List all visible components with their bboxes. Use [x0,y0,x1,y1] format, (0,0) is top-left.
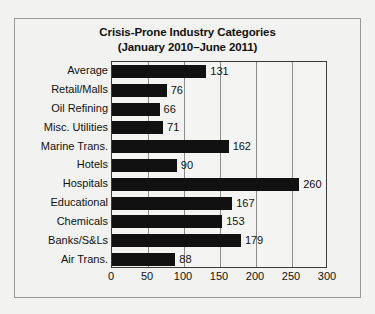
bar-row: 162 [112,137,326,156]
x-tick-label: 50 [141,270,153,282]
category-label: Oil Refining [51,99,108,118]
bar-value-label: 66 [164,104,176,115]
bar-row: 88 [112,250,326,269]
category-label: Air Trans. [61,249,108,268]
x-tick-label: 150 [210,270,228,282]
bar-row: 179 [112,231,326,250]
bar [112,121,163,134]
bar-value-label: 131 [210,66,228,77]
bar-row: 131 [112,62,326,81]
bar-row: 76 [112,81,326,100]
bar [112,140,229,153]
x-tick-label: 250 [282,270,300,282]
bar-row: 66 [112,100,326,119]
bar-value-label: 153 [226,216,244,227]
x-tick-label: 200 [246,270,264,282]
x-axis-tick-labels: 050100150200250300 [111,270,327,286]
category-label: Banks/S&Ls [48,230,108,249]
category-label: Educational [51,193,109,212]
bar-value-label: 179 [245,235,263,246]
bar [112,234,241,247]
x-tick-label: 100 [174,270,192,282]
category-label: Hospitals [63,174,108,193]
bar [112,159,177,172]
bar [112,103,160,116]
bar [112,84,167,97]
category-label: Hotels [77,155,108,174]
plot-area: 1317666711629026016715317988 [111,61,327,268]
x-tick-label: 0 [108,270,114,282]
bar-value-label: 162 [233,141,251,152]
category-label: Average [67,61,108,80]
bar-row: 167 [112,194,326,213]
category-label: Retail/Malls [51,80,108,99]
bar-value-label: 167 [236,198,254,209]
bar [112,253,175,266]
bar-row: 153 [112,213,326,232]
chart-subtitle: (January 2010–June 2011) [15,40,360,55]
bar-row: 90 [112,156,326,175]
category-label: Misc. Utilities [44,117,108,136]
bar [112,178,299,191]
chart-title: Crisis-Prone Industry Categories [15,25,360,40]
category-label: Marine Trans. [41,136,108,155]
category-label: Chemicals [57,212,108,231]
bar-value-label: 76 [171,85,183,96]
bar-value-label: 71 [167,122,179,133]
chart-figure: Crisis-Prone Industry Categories (Januar… [14,18,361,298]
bar [112,65,206,78]
bar [112,215,222,228]
y-axis-category-labels: AverageRetail/MallsOil RefiningMisc. Uti… [15,61,108,268]
bar-value-label: 260 [303,179,321,190]
bars-layer: 1317666711629026016715317988 [112,62,326,267]
x-tick-label: 300 [318,270,336,282]
chart-title-block: Crisis-Prone Industry Categories (Januar… [15,25,360,55]
bar-row: 71 [112,118,326,137]
bar-row: 260 [112,175,326,194]
bar-value-label: 88 [179,254,191,265]
bar [112,197,232,210]
bar-value-label: 90 [181,160,193,171]
